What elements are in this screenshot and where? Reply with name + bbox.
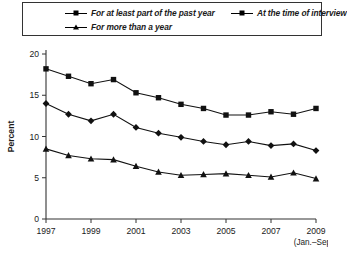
series-square bbox=[43, 66, 318, 118]
x-tick-label: 2001 bbox=[126, 226, 145, 236]
data-point bbox=[291, 112, 296, 117]
x-tick-label: 2005 bbox=[216, 226, 235, 236]
x-axis-ticks: 1997199920012003200520072009 bbox=[36, 219, 325, 236]
y-tick-label: 15 bbox=[29, 90, 39, 100]
data-point bbox=[201, 106, 206, 111]
data-point bbox=[65, 111, 72, 118]
data-point bbox=[290, 169, 297, 175]
legend-entry-at-interview: At the time of interview bbox=[231, 6, 347, 20]
chart-legend: For at least part of the past year At th… bbox=[22, 2, 322, 36]
triangle-marker-icon bbox=[65, 22, 87, 32]
data-point bbox=[155, 130, 162, 137]
legend-label-past-year: For at least part of the past year bbox=[91, 8, 215, 18]
data-point bbox=[43, 100, 50, 107]
diamond-marker-icon bbox=[231, 8, 253, 18]
data-point bbox=[223, 141, 230, 148]
data-point bbox=[268, 142, 275, 149]
data-point bbox=[245, 138, 252, 145]
x-tick-label: 2007 bbox=[261, 226, 280, 236]
data-point bbox=[178, 134, 185, 141]
square-marker-icon bbox=[65, 8, 87, 18]
y-tick-label: 0 bbox=[34, 214, 39, 224]
data-point bbox=[110, 111, 117, 118]
legend-entry-more-than-year: For more than a year bbox=[65, 20, 172, 34]
series-diamond bbox=[43, 100, 320, 154]
data-point bbox=[268, 109, 273, 114]
y-tick-label: 20 bbox=[29, 49, 39, 59]
data-point bbox=[88, 117, 95, 124]
data-point bbox=[66, 74, 71, 79]
legend-label-at-interview: At the time of interview bbox=[257, 8, 347, 18]
x-tick-label: 1999 bbox=[81, 226, 100, 236]
data-point bbox=[133, 90, 138, 95]
legend-label-more-than-year: For more than a year bbox=[91, 22, 172, 32]
x-tick-label: 1997 bbox=[36, 226, 55, 236]
data-point bbox=[43, 66, 48, 71]
data-series-group bbox=[43, 66, 320, 181]
x-tick-label: 2009 bbox=[306, 226, 325, 236]
legend-entry-past-year: For at least part of the past year bbox=[65, 6, 215, 20]
y-axis-ticks: 05101520 bbox=[29, 49, 46, 224]
data-point bbox=[223, 112, 228, 117]
data-point bbox=[156, 95, 161, 100]
data-point bbox=[246, 112, 251, 117]
data-point bbox=[133, 124, 140, 131]
data-point bbox=[200, 138, 207, 145]
series-triangle bbox=[43, 145, 320, 181]
x-tick-label: 2003 bbox=[171, 226, 190, 236]
data-point bbox=[313, 106, 318, 111]
data-point bbox=[178, 102, 183, 107]
x-axis-note: (Jan.–Sept.) bbox=[294, 238, 328, 247]
chart-plot-area: 05101520 1997199920012003200520072009 Pe… bbox=[0, 40, 328, 260]
data-point bbox=[313, 147, 320, 154]
data-point bbox=[290, 141, 297, 148]
y-axis-title: Percent bbox=[6, 121, 16, 153]
line-chart-svg: 05101520 1997199920012003200520072009 Pe… bbox=[0, 40, 328, 260]
data-point bbox=[43, 145, 50, 151]
data-point bbox=[88, 81, 93, 86]
y-tick-label: 10 bbox=[29, 132, 39, 142]
data-point bbox=[111, 77, 116, 82]
y-tick-label: 5 bbox=[34, 173, 39, 183]
